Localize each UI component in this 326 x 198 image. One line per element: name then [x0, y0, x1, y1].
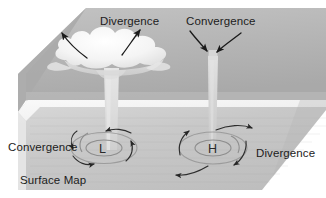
rising-air-column: [104, 68, 119, 150]
label-surface-map: Surface Map: [20, 174, 86, 186]
label-surface-divergence: Divergence: [256, 147, 315, 159]
label-high-pressure-center: H: [208, 142, 217, 156]
upper-slab-haze-band: [26, 92, 326, 101]
label-upper-convergence: Convergence: [186, 15, 256, 27]
label-upper-divergence: Divergence: [100, 15, 159, 27]
label-surface-convergence: Convergence: [8, 141, 78, 153]
upper-atmosphere-slab: [18, 8, 326, 112]
block-diagram-figure: Divergence Convergence Convergence Diver…: [0, 0, 326, 198]
label-low-pressure-center: L: [99, 142, 106, 156]
diagram-canvas: Divergence Convergence Convergence Diver…: [0, 0, 326, 198]
downdraft-column-neck: [208, 50, 218, 60]
